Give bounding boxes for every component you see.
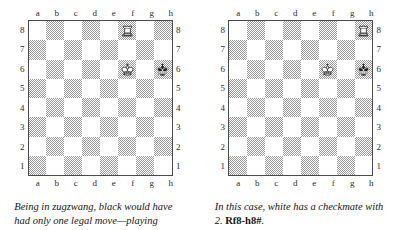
square-e8[interactable] bbox=[100, 21, 118, 40]
square-c5[interactable] bbox=[64, 79, 82, 98]
square-a6[interactable] bbox=[29, 60, 47, 79]
square-d1[interactable] bbox=[283, 156, 301, 175]
square-d3[interactable] bbox=[283, 117, 301, 136]
square-h8[interactable] bbox=[154, 21, 172, 40]
square-f5[interactable] bbox=[118, 79, 136, 98]
square-f5[interactable] bbox=[319, 79, 337, 98]
square-e4[interactable] bbox=[301, 98, 319, 117]
square-a8[interactable] bbox=[229, 21, 247, 40]
square-a7[interactable] bbox=[229, 40, 247, 59]
square-e7[interactable] bbox=[100, 40, 118, 59]
square-h4[interactable] bbox=[154, 98, 172, 117]
square-g1[interactable] bbox=[136, 156, 154, 175]
square-b8[interactable] bbox=[46, 21, 64, 40]
square-f4[interactable] bbox=[118, 98, 136, 117]
square-c2[interactable] bbox=[265, 137, 283, 156]
square-d5[interactable] bbox=[283, 79, 301, 98]
square-h8[interactable] bbox=[355, 21, 373, 40]
square-b7[interactable] bbox=[247, 40, 265, 59]
square-d8[interactable] bbox=[283, 21, 301, 40]
square-d2[interactable] bbox=[283, 137, 301, 156]
square-f3[interactable] bbox=[319, 117, 337, 136]
square-c4[interactable] bbox=[265, 98, 283, 117]
square-h5[interactable] bbox=[154, 79, 172, 98]
square-a4[interactable] bbox=[229, 98, 247, 117]
square-h7[interactable] bbox=[355, 40, 373, 59]
square-h1[interactable] bbox=[355, 156, 373, 175]
square-d4[interactable] bbox=[283, 98, 301, 117]
square-d6[interactable] bbox=[283, 60, 301, 79]
square-g6[interactable] bbox=[136, 60, 154, 79]
square-h6[interactable] bbox=[355, 60, 373, 79]
square-b4[interactable] bbox=[247, 98, 265, 117]
square-f1[interactable] bbox=[118, 156, 136, 175]
square-c3[interactable] bbox=[64, 117, 82, 136]
square-f8[interactable] bbox=[118, 21, 136, 40]
square-f6[interactable] bbox=[319, 60, 337, 79]
square-d8[interactable] bbox=[82, 21, 100, 40]
square-c7[interactable] bbox=[265, 40, 283, 59]
square-b6[interactable] bbox=[46, 60, 64, 79]
square-c1[interactable] bbox=[64, 156, 82, 175]
square-e3[interactable] bbox=[100, 117, 118, 136]
square-e3[interactable] bbox=[301, 117, 319, 136]
square-d7[interactable] bbox=[82, 40, 100, 59]
square-b2[interactable] bbox=[46, 137, 64, 156]
square-a5[interactable] bbox=[29, 79, 47, 98]
square-f2[interactable] bbox=[319, 137, 337, 156]
square-b1[interactable] bbox=[247, 156, 265, 175]
square-h3[interactable] bbox=[154, 117, 172, 136]
square-d7[interactable] bbox=[283, 40, 301, 59]
square-h5[interactable] bbox=[355, 79, 373, 98]
square-e6[interactable] bbox=[100, 60, 118, 79]
square-e6[interactable] bbox=[301, 60, 319, 79]
square-a2[interactable] bbox=[29, 137, 47, 156]
square-b4[interactable] bbox=[46, 98, 64, 117]
square-b5[interactable] bbox=[46, 79, 64, 98]
square-h2[interactable] bbox=[355, 137, 373, 156]
square-f2[interactable] bbox=[118, 137, 136, 156]
square-e2[interactable] bbox=[100, 137, 118, 156]
square-a2[interactable] bbox=[229, 137, 247, 156]
square-a8[interactable] bbox=[29, 21, 47, 40]
square-d1[interactable] bbox=[82, 156, 100, 175]
square-c8[interactable] bbox=[265, 21, 283, 40]
square-e8[interactable] bbox=[301, 21, 319, 40]
square-b7[interactable] bbox=[46, 40, 64, 59]
square-d5[interactable] bbox=[82, 79, 100, 98]
square-c4[interactable] bbox=[64, 98, 82, 117]
square-b2[interactable] bbox=[247, 137, 265, 156]
square-h3[interactable] bbox=[355, 117, 373, 136]
square-c8[interactable] bbox=[64, 21, 82, 40]
square-b6[interactable] bbox=[247, 60, 265, 79]
square-d2[interactable] bbox=[82, 137, 100, 156]
square-f7[interactable] bbox=[319, 40, 337, 59]
square-g3[interactable] bbox=[337, 117, 355, 136]
square-h1[interactable] bbox=[154, 156, 172, 175]
square-g3[interactable] bbox=[136, 117, 154, 136]
square-a6[interactable] bbox=[229, 60, 247, 79]
square-e5[interactable] bbox=[301, 79, 319, 98]
square-b3[interactable] bbox=[46, 117, 64, 136]
square-h2[interactable] bbox=[154, 137, 172, 156]
square-a3[interactable] bbox=[29, 117, 47, 136]
square-e1[interactable] bbox=[301, 156, 319, 175]
square-a3[interactable] bbox=[229, 117, 247, 136]
square-b5[interactable] bbox=[247, 79, 265, 98]
square-c3[interactable] bbox=[265, 117, 283, 136]
square-a7[interactable] bbox=[29, 40, 47, 59]
square-e2[interactable] bbox=[301, 137, 319, 156]
chessboard-right[interactable] bbox=[228, 20, 373, 176]
square-g4[interactable] bbox=[136, 98, 154, 117]
square-a5[interactable] bbox=[229, 79, 247, 98]
square-f8[interactable] bbox=[319, 21, 337, 40]
square-d3[interactable] bbox=[82, 117, 100, 136]
square-g7[interactable] bbox=[136, 40, 154, 59]
square-g4[interactable] bbox=[337, 98, 355, 117]
square-g5[interactable] bbox=[136, 79, 154, 98]
square-f1[interactable] bbox=[319, 156, 337, 175]
square-c1[interactable] bbox=[265, 156, 283, 175]
square-g7[interactable] bbox=[337, 40, 355, 59]
square-h4[interactable] bbox=[355, 98, 373, 117]
square-a1[interactable] bbox=[29, 156, 47, 175]
